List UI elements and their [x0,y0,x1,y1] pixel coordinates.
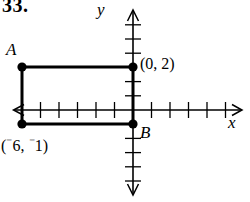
y-axis-label: y [97,1,105,18]
negative-sign-y: ⁻ [29,135,35,149]
vertex-point-0-2 [128,62,137,71]
coordinate-label-top-right: (0, 2) [140,56,175,72]
negative-sign-x: ⁻ [6,135,12,149]
problem-number: 33. [2,0,29,15]
point-label-b: B [140,124,150,141]
coordinate-label-bottom-left: (⁻6, ⁻1) [1,136,48,154]
figure-container: 33. y x A B (0, 2) (⁻6, ⁻1) [0,0,250,202]
vertex-point-neg6-neg1 [17,119,26,128]
coord-x-value: 6, [13,137,25,154]
vertex-point-b [128,119,137,128]
coord-y-value: 1) [35,137,48,154]
coordinate-plane-graphic [0,0,250,202]
point-label-a: A [6,41,16,58]
x-axis-label: x [228,114,236,131]
vertex-point-a [17,62,26,71]
